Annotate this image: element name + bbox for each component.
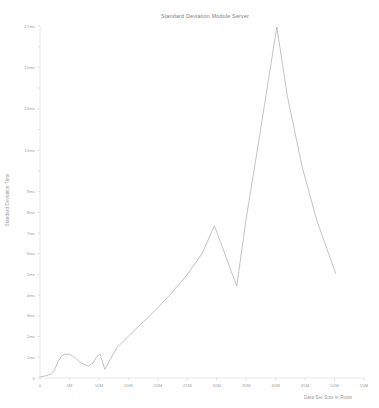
line-chart: Standard Deviation Module Server Standar… bbox=[0, 0, 379, 408]
y-tick-label: 17ms bbox=[24, 24, 35, 29]
x-tick-label: 50M bbox=[330, 383, 339, 388]
y-tick-label: 4ms bbox=[27, 293, 35, 298]
y-tick-label: 2ms bbox=[27, 334, 35, 339]
y-axis-title: Standard Deviation Time bbox=[5, 173, 10, 226]
x-tick-label: 35M bbox=[242, 383, 251, 388]
x-tick-label: 45M bbox=[301, 383, 310, 388]
x-tick-label: 5M bbox=[66, 383, 72, 388]
y-axis-tick-labels: 01ms2ms3ms4ms5ms6ms7ms8ms9ms11ms13ms15ms… bbox=[24, 24, 35, 381]
x-tick-label: 30M bbox=[212, 383, 221, 388]
y-tick-label: 9ms bbox=[27, 189, 35, 194]
y-tick-label: 6ms bbox=[27, 251, 35, 256]
x-tick-label: 20M bbox=[154, 383, 163, 388]
y-tick-label: 15ms bbox=[24, 65, 35, 70]
y-tick-label: 5ms bbox=[27, 272, 35, 277]
y-axis-tick-marks bbox=[38, 26, 41, 378]
x-axis-tick-marks bbox=[40, 378, 364, 381]
data-series-line bbox=[40, 27, 336, 377]
y-tick-label: 0 bbox=[33, 376, 36, 381]
x-tick-label: 10M bbox=[95, 383, 104, 388]
x-tick-label: 15M bbox=[124, 383, 133, 388]
x-tick-label: 55M bbox=[360, 383, 369, 388]
y-tick-label: 7ms bbox=[27, 231, 35, 236]
x-tick-label: 0 bbox=[39, 383, 42, 388]
y-tick-label: 8ms bbox=[27, 210, 35, 215]
x-tick-label: 40M bbox=[271, 383, 280, 388]
y-tick-label: 13ms bbox=[24, 106, 35, 111]
y-tick-label: 3ms bbox=[27, 313, 35, 318]
y-tick-label: 1ms bbox=[27, 355, 35, 360]
x-tick-label: 25M bbox=[183, 383, 192, 388]
y-tick-label: 11ms bbox=[25, 148, 35, 153]
x-axis-title: Data Set Size in Rows bbox=[304, 395, 353, 400]
chart-container: Standard Deviation Module Server Standar… bbox=[0, 0, 379, 408]
x-axis-tick-labels: 05M10M15M20M25M30M35M40M45M50M55M bbox=[39, 383, 369, 388]
chart-title: Standard Deviation Module Server bbox=[161, 13, 249, 19]
